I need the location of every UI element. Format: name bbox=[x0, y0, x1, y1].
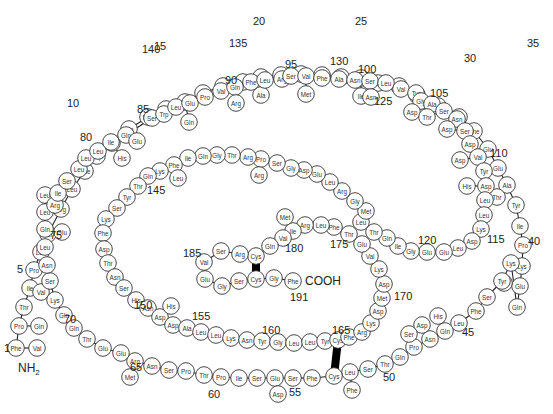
position-label: 35 bbox=[527, 37, 539, 49]
svg-text:Val: Val bbox=[397, 86, 406, 93]
residue-183: Arg bbox=[232, 246, 249, 263]
residue-150: Ser bbox=[116, 280, 133, 297]
svg-text:Ser: Ser bbox=[119, 285, 129, 292]
svg-text:Leu: Leu bbox=[479, 212, 490, 219]
svg-text:Tyr: Tyr bbox=[512, 202, 521, 210]
svg-text:Ser: Ser bbox=[216, 248, 226, 255]
residue-36: Ile bbox=[512, 218, 529, 235]
svg-text:Ser: Ser bbox=[272, 160, 282, 167]
variant-residue-84: Glu bbox=[129, 133, 146, 150]
svg-text:Gln: Gln bbox=[512, 304, 522, 311]
svg-text:Met: Met bbox=[361, 208, 372, 215]
svg-text:Met: Met bbox=[125, 374, 136, 381]
svg-text:Asp: Asp bbox=[455, 157, 466, 165]
residue-72: Asn bbox=[39, 257, 56, 274]
position-label: 115 bbox=[487, 233, 505, 245]
svg-text:Leu: Leu bbox=[356, 219, 367, 226]
svg-text:Pro: Pro bbox=[29, 267, 39, 274]
svg-text:Leu: Leu bbox=[40, 244, 51, 251]
svg-text:Cys: Cys bbox=[251, 276, 262, 284]
svg-text:Leu: Leu bbox=[345, 369, 356, 376]
svg-text:Asn: Asn bbox=[42, 262, 53, 269]
residue-181: Gln bbox=[262, 238, 279, 255]
position-label: 60 bbox=[208, 388, 220, 400]
residue-101: Leu bbox=[378, 75, 395, 92]
residue-35: Tyr bbox=[508, 197, 525, 214]
svg-text:His: His bbox=[433, 313, 442, 320]
position-label: 25 bbox=[355, 15, 367, 27]
svg-text:Gln: Gln bbox=[382, 235, 392, 242]
residue-134: Arg bbox=[240, 149, 257, 166]
variant-residue-1: Val bbox=[29, 340, 46, 357]
svg-text:Ile: Ile bbox=[55, 190, 62, 197]
svg-text:Phe: Phe bbox=[168, 162, 180, 169]
position-label: 170 bbox=[394, 290, 412, 302]
svg-text:Arg: Arg bbox=[235, 251, 245, 259]
position-label: 155 bbox=[192, 310, 210, 322]
svg-text:Met: Met bbox=[301, 91, 312, 98]
residue-63: Asn bbox=[144, 358, 161, 375]
residue-93: Leu bbox=[257, 72, 274, 89]
svg-text:Glu: Glu bbox=[312, 171, 322, 178]
svg-text:Pro: Pro bbox=[200, 94, 210, 101]
svg-text:Gly: Gly bbox=[212, 152, 222, 160]
svg-text:Val: Val bbox=[37, 289, 46, 296]
variant-residue-112: His bbox=[459, 178, 476, 195]
residue-73: Leu bbox=[37, 239, 54, 256]
svg-text:Ser: Ser bbox=[164, 367, 174, 374]
position-label: 10 bbox=[67, 97, 79, 109]
svg-text:Leu: Leu bbox=[171, 104, 182, 111]
svg-text:His: His bbox=[117, 155, 126, 162]
svg-text:Ser: Ser bbox=[439, 108, 449, 115]
residue-118: Glu bbox=[436, 244, 453, 261]
svg-text:Cys: Cys bbox=[329, 373, 340, 381]
svg-text:Thr: Thr bbox=[133, 183, 142, 190]
position-label: 175 bbox=[330, 238, 348, 250]
svg-text:Ile: Ile bbox=[108, 139, 115, 146]
variant-residue-2: Gln bbox=[31, 318, 48, 335]
svg-text:Lys: Lys bbox=[506, 260, 516, 268]
svg-text:Glu: Glu bbox=[270, 375, 280, 382]
position-label: 130 bbox=[330, 55, 348, 67]
svg-text:Gly: Gly bbox=[269, 275, 279, 283]
svg-text:Ser: Ser bbox=[147, 115, 157, 122]
variant-residue-110: Asp bbox=[452, 152, 469, 169]
position-label: 185 bbox=[183, 247, 201, 259]
svg-text:Asp: Asp bbox=[407, 109, 418, 117]
svg-text:Glu: Glu bbox=[200, 276, 210, 283]
svg-text:Asn: Asn bbox=[452, 116, 463, 123]
svg-text:His: His bbox=[166, 303, 175, 310]
svg-text:Ala: Ala bbox=[502, 182, 512, 189]
residue-40: Gln bbox=[509, 299, 526, 316]
residue-60: Thr bbox=[196, 367, 213, 384]
residue-137: Gln bbox=[195, 148, 212, 165]
svg-text:Asn: Asn bbox=[147, 363, 158, 370]
residue-89: Pro bbox=[197, 89, 214, 106]
svg-text:Asp: Asp bbox=[465, 141, 476, 149]
svg-text:Pro: Pro bbox=[518, 242, 528, 249]
variant-residue-48: Ser bbox=[401, 326, 418, 343]
svg-text:Ser: Ser bbox=[252, 375, 262, 382]
variant-residue-108: Asp bbox=[439, 121, 456, 138]
svg-text:Arg: Arg bbox=[243, 154, 253, 162]
residue-102: Val bbox=[393, 81, 410, 98]
c-terminus-label: COOH bbox=[305, 274, 341, 288]
svg-text:Thr: Thr bbox=[227, 152, 236, 159]
svg-text:Tyr: Tyr bbox=[498, 278, 507, 286]
variant-residue-91: Arg bbox=[228, 95, 245, 112]
residue-46: Gln bbox=[437, 323, 454, 340]
svg-text:Asp: Asp bbox=[168, 322, 179, 330]
variant-residue-105: Thr bbox=[419, 109, 436, 126]
svg-text:Thr: Thr bbox=[103, 260, 112, 267]
residue-189: Cys bbox=[248, 271, 265, 288]
residue-95: Ser bbox=[283, 68, 300, 85]
position-label: 85 bbox=[137, 103, 149, 115]
svg-text:Leu: Leu bbox=[305, 339, 316, 346]
residue-67: Thr bbox=[79, 331, 96, 348]
variant-residue-139: Leu bbox=[170, 170, 187, 187]
svg-text:Val: Val bbox=[474, 154, 483, 161]
residue-49: Gln bbox=[392, 349, 409, 366]
residue-159: Asn bbox=[239, 332, 256, 349]
svg-text:Glu: Glu bbox=[116, 350, 126, 357]
svg-text:Ser: Ser bbox=[363, 366, 373, 373]
